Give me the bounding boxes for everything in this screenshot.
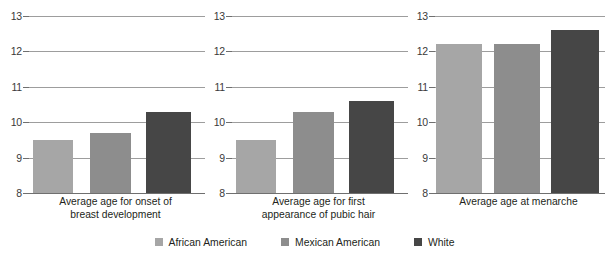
y-axis-tick-9: 9 [0,153,22,163]
chart-panel-menarche: 8910111213 Average age at menarche [406,0,609,225]
panel-caption-1: Average age for onset of breast developm… [24,196,207,221]
panel-caption-1-line1: Average age for onset of [24,196,207,209]
y-axis-tick-dash-9 [429,158,435,159]
y-axis-tick-13: 13 [0,11,22,21]
y-axis-tick-dash-13 [23,16,29,17]
grouped-bar-chart: 8910111213 Average age for onset of brea… [0,0,609,255]
y-axis-tick-dash-12 [23,51,29,52]
gridline-12 [28,51,205,52]
y-axis-tick-dash-13 [226,16,232,17]
legend-item-african-american: African American [155,237,248,248]
y-axis-tick-10: 10 [203,117,225,127]
y-axis-tick-dash-8 [23,193,29,194]
y-axis-tick-dash-8 [226,193,232,194]
y-axis-tick-9: 9 [203,153,225,163]
y-axis-tick-dash-9 [23,158,29,159]
bar-african-american [236,140,276,193]
gridline-13 [231,16,408,17]
legend-item-white: White [414,237,455,248]
legend-swatch-mexican-american [281,238,289,246]
y-axis-tick-13: 13 [406,11,428,21]
y-axis-tick-dash-10 [23,122,29,123]
plot-area-panel-3: 8910111213 [406,0,609,225]
y-axis-tick-dash-11 [429,87,435,88]
y-axis-tick-12: 12 [0,46,22,56]
y-axis-tick-11: 11 [203,82,225,92]
y-axis-tick-8: 8 [0,188,22,198]
legend-swatch-white [414,238,422,246]
legend-label-mexican-american: Mexican American [295,237,380,248]
panel-caption-3-line1: Average age at menarche [430,196,607,209]
y-axis-tick-8: 8 [203,188,225,198]
bar-mexican-american [293,112,334,193]
bar-mexican-american [90,133,131,193]
gridline-13 [434,16,605,17]
y-axis-tick-dash-9 [226,158,232,159]
y-axis-tick-10: 10 [0,117,22,127]
y-axis-tick-dash-12 [429,51,435,52]
plot-area-panel-1: 8910111213 [0,0,209,225]
y-axis-tick-11: 11 [406,82,428,92]
panel-caption-3: Average age at menarche [430,196,607,209]
panel-caption-2: Average age for first appearance of pubi… [227,196,410,221]
plot-area-panel-2: 8910111213 [203,0,412,225]
y-axis-tick-dash-11 [226,87,232,88]
bar-african-american [436,44,482,193]
chart-legend: African American Mexican American White [0,234,609,250]
bar-white [146,112,191,193]
bar-white [551,30,599,193]
chart-panel-pubic-hair: 8910111213 Average age for first appeara… [203,0,412,225]
y-axis-tick-dash-10 [429,122,435,123]
bar-mexican-american [494,44,540,193]
legend-swatch-african-american [155,238,163,246]
y-axis-tick-dash-8 [429,193,435,194]
gridline-13 [28,16,205,17]
panel-caption-2-line1: Average age for first [227,196,410,209]
y-axis-tick-dash-13 [429,16,435,17]
y-axis-tick-dash-10 [226,122,232,123]
y-axis-tick-13: 13 [203,11,225,21]
y-axis-tick-12: 12 [203,46,225,56]
panel-caption-1-line2: breast development [24,209,207,222]
axis-baseline [231,193,408,194]
y-axis-tick-9: 9 [406,153,428,163]
y-axis-tick-11: 11 [0,82,22,92]
legend-label-african-american: African American [169,237,248,248]
axis-baseline [28,193,205,194]
y-axis-tick-8: 8 [406,188,428,198]
y-axis-tick-dash-11 [23,87,29,88]
panel-caption-2-line2: appearance of pubic hair [227,209,410,222]
bar-white [349,101,394,193]
axis-baseline [434,193,605,194]
gridline-11 [231,87,408,88]
legend-label-white: White [428,237,455,248]
y-axis-tick-10: 10 [406,117,428,127]
y-axis-tick-12: 12 [406,46,428,56]
chart-panel-breast-development: 8910111213 Average age for onset of brea… [0,0,209,225]
legend-item-mexican-american: Mexican American [281,237,380,248]
gridline-11 [28,87,205,88]
y-axis-tick-dash-12 [226,51,232,52]
gridline-12 [231,51,408,52]
bar-african-american [33,140,73,193]
